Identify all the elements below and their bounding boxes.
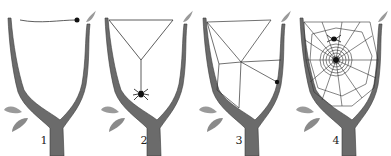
leaf-icon <box>101 107 119 114</box>
panel-label: 1 <box>37 134 51 147</box>
leaf-icon <box>207 118 223 132</box>
panel-1: 1 <box>0 0 98 156</box>
frame-thread <box>141 20 173 60</box>
spider-icon <box>275 80 279 84</box>
leaf-icon <box>199 107 217 114</box>
frame-thread <box>109 20 141 60</box>
panel-4: 4 <box>292 0 390 156</box>
leaf-icon <box>86 10 96 22</box>
leaf-icon <box>281 10 291 22</box>
spider-icon <box>133 89 149 100</box>
tree-fork-illustration <box>0 0 98 156</box>
panel-label: 3 <box>232 134 246 147</box>
panel-3: 3 <box>195 0 293 156</box>
web-hub <box>333 57 339 63</box>
leaf-icon <box>109 118 125 132</box>
leaf-icon <box>304 118 320 132</box>
leaf-icon <box>12 118 28 132</box>
leaf-icon <box>183 10 193 22</box>
tree-fork-illustration <box>195 0 293 156</box>
panel-2: 2 <box>97 0 195 156</box>
spider-web-diagram: 1 2 <box>0 0 391 156</box>
panel-label: 4 <box>329 134 343 147</box>
leaf-icon <box>296 107 314 114</box>
tree-fork-illustration <box>292 0 391 156</box>
bridge-thread <box>20 20 76 22</box>
panel-label: 2 <box>137 134 151 147</box>
leaf-icon <box>4 107 22 114</box>
leaf-icon <box>378 10 388 22</box>
spider-icon <box>327 35 341 42</box>
tree-fork-illustration <box>97 0 195 156</box>
spider-icon <box>75 18 80 23</box>
